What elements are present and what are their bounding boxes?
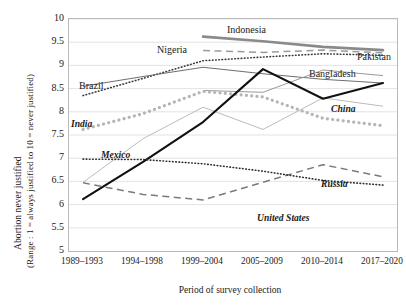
y-tick-9: 9 [30,59,64,69]
y-tick-8: 8 [30,106,64,116]
y-axis-title-line1: Abortion never justified [13,156,23,250]
series-label-brazil: Brazil [79,81,103,91]
series-label-nigeria: Nigeria [157,45,187,55]
series-label-mexico: Mexico [101,150,130,160]
x-axis-tick-labels: 1989–19931994–19981999–20042005–20092010… [0,256,406,274]
x-tick-5: 2017–2020 [361,256,403,266]
plot-area: BrazilNigeriaIndonesiaPakistanBangladesh… [68,18,398,252]
series-label-china: China [331,104,356,114]
y-tick-7-5: 7.5 [30,129,64,139]
series-label-russia: Russia [321,179,348,189]
x-tick-0: 1989–1993 [61,256,103,266]
series-label-united-states: United States [257,213,310,223]
series-label-pakistan: Pakistan [357,52,391,62]
chart-figure: Abortion never justified (Range : 1 = al… [0,0,406,308]
y-tick-8-5: 8.5 [30,83,64,93]
series-canvas [69,19,397,251]
y-tick-6-5: 6.5 [30,175,64,185]
y-tick-6: 6 [30,199,64,209]
y-tick-9-5: 9.5 [30,36,64,46]
x-tick-1: 1994–1998 [121,256,163,266]
x-tick-3: 2005–2009 [241,256,283,266]
y-tick-5-5: 5.5 [30,222,64,232]
y-tick-5: 5 [30,245,64,255]
y-tick-7: 7 [30,152,64,162]
x-axis-title: Period of survey collection [0,285,406,295]
series-line-pakistan [203,50,383,53]
series-label-indonesia: Indonesia [227,25,266,35]
series-line-indonesia [203,37,383,50]
x-axis-title-text: Period of survey collection [125,285,282,295]
series-label-india: India [71,119,92,129]
x-tick-4: 2010–2014 [301,256,343,266]
series-label-bangladesh: Bangladesh [309,69,356,79]
x-tick-2: 1999–2004 [181,256,223,266]
y-tick-10: 10 [30,13,64,23]
